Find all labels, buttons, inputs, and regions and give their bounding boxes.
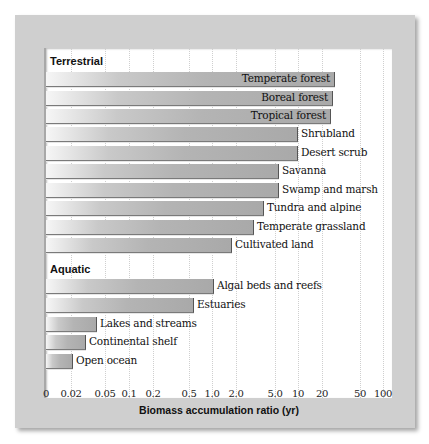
x-tick-label: 0.05 (94, 388, 115, 399)
bar-label: Savanna (282, 164, 326, 176)
x-tick-label: 0 (43, 388, 49, 399)
bar-label: Tropical forest (251, 109, 326, 121)
x-tick-label: 2.0 (228, 388, 243, 399)
x-tick-label: 100 (374, 388, 392, 399)
bar (46, 279, 214, 294)
x-tick-label: 5.0 (267, 388, 282, 399)
gridline (383, 48, 384, 398)
bar-label: Open ocean (76, 354, 137, 366)
bar (46, 238, 232, 253)
bar-label: Lakes and streams (100, 317, 197, 329)
bar-label: Tundra and alpine (267, 201, 361, 213)
bar-label: Boreal forest (261, 91, 328, 103)
bar (46, 183, 279, 198)
bar-label: Desert scrub (301, 146, 367, 158)
x-tick-label: 50 (354, 388, 366, 399)
bar-label: Algal beds and reefs (217, 279, 322, 291)
bar-label: Shrubland (301, 127, 355, 139)
x-tick-label: 0.5 (181, 388, 196, 399)
x-tick-label: 0.1 (121, 388, 136, 399)
x-tick-label: 0.2 (145, 388, 160, 399)
group-title-aquatic: Aquatic (50, 263, 90, 275)
y-axis-strip (44, 48, 46, 398)
x-tick-label: 10 (292, 388, 304, 399)
group-title-terrestrial: Terrestrial (50, 55, 103, 67)
bar (46, 201, 264, 216)
bar (46, 317, 97, 332)
bar (46, 335, 86, 350)
bar-label: Estuaries (197, 298, 245, 310)
bar-label: Continental shelf (89, 335, 177, 347)
bar (46, 164, 279, 179)
bar (46, 354, 73, 369)
bar-label: Temperate grassland (257, 220, 365, 232)
x-tick-label: 20 (316, 388, 328, 399)
x-axis-label: Biomass accumulation ratio (yr) (46, 404, 392, 416)
bar (46, 146, 298, 161)
bar (46, 220, 254, 235)
bar-label: Swamp and marsh (282, 183, 378, 195)
x-tick-label: 1.0 (204, 388, 219, 399)
bar (46, 127, 298, 142)
plot-area: Terrestrial Aquatic Temperate forestBore… (46, 48, 392, 398)
x-tick-label: 0.02 (60, 388, 81, 399)
bar-label: Temperate forest (242, 72, 330, 84)
bar (46, 298, 194, 313)
bar-label: Cultivated land (235, 238, 314, 250)
